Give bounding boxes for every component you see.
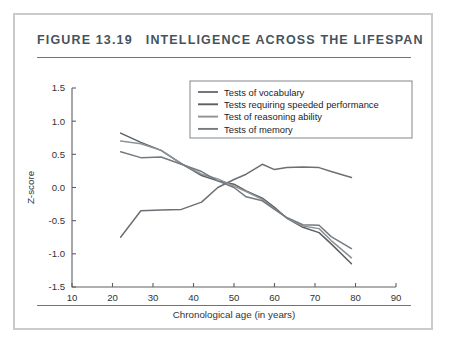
chart-legend: Tests of vocabularyTests requiring speed… bbox=[190, 81, 412, 138]
chart-series bbox=[121, 133, 352, 264]
y-tick-label: 0.0 bbox=[52, 182, 65, 193]
x-tick-label: 30 bbox=[148, 292, 159, 303]
legend-label: Test of reasoning ability bbox=[224, 111, 322, 122]
y-tick-label: 1.0 bbox=[52, 116, 65, 127]
chart-axis-labels: Chronological age (in years)Z-score bbox=[25, 170, 295, 320]
x-tick-label: 10 bbox=[67, 292, 78, 303]
x-tick-label: 20 bbox=[107, 292, 118, 303]
series-line bbox=[121, 164, 352, 237]
y-axis-title: Z-score bbox=[25, 170, 36, 204]
x-axis-title: Chronological age (in years) bbox=[173, 309, 296, 320]
legend-label: Tests requiring speeded performance bbox=[224, 99, 379, 110]
x-tick-label: 80 bbox=[350, 292, 361, 303]
y-tick-label: -1.5 bbox=[48, 281, 65, 292]
series-line bbox=[121, 133, 352, 264]
legend-label: Tests of vocabulary bbox=[224, 87, 305, 98]
series-line bbox=[121, 152, 352, 249]
y-tick-label: -0.5 bbox=[48, 215, 65, 226]
y-tick-label: -1.0 bbox=[48, 248, 65, 259]
series-line bbox=[121, 141, 352, 258]
x-tick-label: 70 bbox=[310, 292, 321, 303]
line-chart: 1.51.00.50.0-0.5-1.0-1.51020304050607080… bbox=[0, 0, 449, 347]
x-tick-label: 50 bbox=[229, 292, 240, 303]
x-tick-label: 90 bbox=[391, 292, 402, 303]
y-tick-label: 0.5 bbox=[52, 149, 65, 160]
x-tick-label: 60 bbox=[269, 292, 280, 303]
y-tick-label: 1.5 bbox=[52, 82, 65, 93]
legend-label: Tests of memory bbox=[224, 124, 293, 135]
x-tick-label: 40 bbox=[188, 292, 199, 303]
